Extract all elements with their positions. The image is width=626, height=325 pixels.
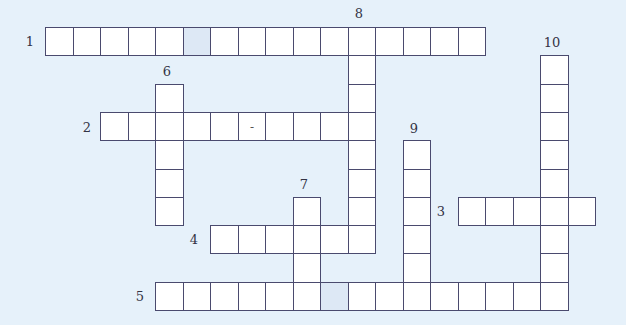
crossword-cell[interactable] [238,225,266,254]
crossword-cell[interactable] [210,112,239,141]
crossword-cell[interactable] [128,27,156,56]
crossword-cell[interactable] [293,197,321,226]
clue-number-1: 1 [26,34,34,49]
crossword-cell[interactable] [540,84,569,113]
crossword-cell[interactable] [375,27,404,56]
crossword-cell[interactable] [348,282,376,311]
crossword-cell[interactable] [348,225,376,254]
crossword-cell[interactable] [320,27,349,56]
crossword-cell[interactable] [210,27,239,56]
crossword-cell[interactable] [265,225,294,254]
crossword-cell[interactable] [320,282,349,311]
crossword-cell[interactable] [293,253,321,283]
crossword-cell[interactable] [348,84,376,113]
crossword-cell[interactable] [155,169,184,198]
crossword-cell[interactable]: - [238,112,266,141]
crossword-cell[interactable] [348,112,376,141]
clue-number-3: 3 [437,204,445,219]
crossword-cell[interactable] [100,27,129,56]
crossword-cell[interactable] [540,197,569,226]
crossword-cell[interactable] [485,197,514,226]
crossword-cell[interactable] [183,27,211,56]
crossword-cell[interactable] [73,27,101,56]
crossword-cell[interactable] [183,282,211,311]
crossword-cell[interactable] [540,282,569,311]
crossword-cell[interactable] [403,225,431,254]
crossword-cell[interactable] [155,27,184,56]
crossword-cell[interactable] [403,282,431,311]
crossword-cell[interactable] [403,197,431,226]
crossword-cell[interactable] [155,112,184,141]
crossword-cell[interactable] [348,197,376,226]
clue-number-4: 4 [190,232,198,247]
crossword-cell[interactable] [155,140,184,170]
crossword-cell[interactable] [540,55,569,85]
clue-number-5: 5 [136,289,144,304]
crossword-cell[interactable] [403,27,431,56]
crossword-board: -12345678910 [0,0,626,325]
crossword-cell[interactable] [348,27,376,56]
crossword-cell[interactable] [430,27,459,56]
clue-number-2: 2 [83,120,91,135]
crossword-cell[interactable] [513,197,541,226]
crossword-cell[interactable] [238,27,266,56]
crossword-cell[interactable] [155,197,184,226]
crossword-cell[interactable] [155,84,184,113]
clue-number-9: 9 [410,121,418,136]
crossword-cell[interactable] [540,253,569,283]
crossword-cell[interactable] [348,55,376,85]
crossword-cell[interactable] [45,27,74,56]
crossword-cell[interactable] [210,225,239,254]
crossword-cell[interactable] [403,169,431,198]
crossword-cell[interactable] [265,112,294,141]
clue-number-8: 8 [355,6,363,21]
crossword-cell[interactable] [238,282,266,311]
crossword-cell[interactable] [320,112,349,141]
crossword-cell[interactable] [155,282,184,311]
crossword-cell[interactable] [265,27,294,56]
crossword-cell[interactable] [403,140,431,170]
crossword-cell[interactable] [293,282,321,311]
crossword-cell[interactable] [540,112,569,141]
crossword-cell[interactable] [513,282,541,311]
crossword-cell[interactable] [183,112,211,141]
crossword-cell[interactable] [210,282,239,311]
crossword-cell[interactable] [128,112,156,141]
crossword-cell[interactable] [348,140,376,170]
crossword-cell[interactable] [100,112,129,141]
crossword-cell[interactable] [458,282,486,311]
crossword-cell[interactable] [403,253,431,283]
crossword-cell[interactable] [458,27,486,56]
crossword-cell[interactable] [348,169,376,198]
crossword-cell[interactable] [320,225,349,254]
crossword-cell[interactable] [293,112,321,141]
crossword-cell[interactable] [293,225,321,254]
crossword-cell[interactable] [430,282,459,311]
clue-number-7: 7 [300,177,308,192]
crossword-cell[interactable] [458,197,486,226]
crossword-cell[interactable] [568,197,596,226]
clue-number-10: 10 [544,35,561,50]
clue-number-6: 6 [163,64,171,79]
crossword-cell[interactable] [540,169,569,198]
crossword-cell[interactable] [375,282,404,311]
crossword-cell[interactable] [540,225,569,254]
crossword-cell[interactable] [485,282,514,311]
crossword-cell[interactable] [293,27,321,56]
crossword-cell[interactable] [540,140,569,170]
crossword-cell[interactable] [265,282,294,311]
